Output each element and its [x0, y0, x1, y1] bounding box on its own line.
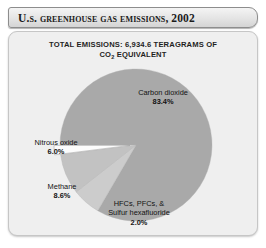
- figure-title-bar: U.S. Greenhouse Gas Emissions, 2002: [8, 7, 258, 28]
- slice-percent-nitrous-oxide: 6.0%: [19, 147, 93, 156]
- slice-label-carbon-dioxide: Carbon dioxide 83.4%: [121, 88, 205, 107]
- greenhouse-gas-emissions-figure: U.S. Greenhouse Gas Emissions, 2002 TOTA…: [0, 0, 266, 248]
- slice-name-methane: Methane: [31, 182, 93, 191]
- page-title: U.S. Greenhouse Gas Emissions, 2002: [9, 12, 195, 24]
- slice-label-fluorinated-gases: HFCs, PFCs, & Sulfur hexafluoride 2.0%: [86, 199, 192, 227]
- slice-percent-fluorinated-gases: 2.0%: [86, 218, 192, 227]
- slice-name-fluorinated-gases-line1: HFCs, PFCs, &: [86, 199, 192, 208]
- slice-label-nitrous-oxide: Nitrous oxide 6.0%: [19, 138, 93, 157]
- slice-percent-methane: 8.6%: [31, 191, 93, 200]
- slice-name-fluorinated-gases-line2: Sulfur hexafluoride: [86, 208, 192, 217]
- slice-label-methane: Methane 8.6%: [31, 182, 93, 201]
- slice-name-carbon-dioxide: Carbon dioxide: [121, 88, 205, 97]
- slice-name-nitrous-oxide: Nitrous oxide: [19, 138, 93, 147]
- slice-percent-carbon-dioxide: 83.4%: [121, 97, 205, 106]
- chart-panel: TOTAL EMISSIONS: 6,934.6 TERAGRAMS OF CO…: [8, 31, 258, 236]
